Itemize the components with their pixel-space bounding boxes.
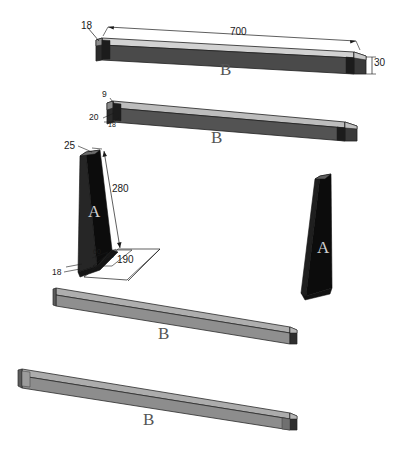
bar1-dim-18-label: 18 [81, 21, 92, 31]
bracketA-dim18-leader [64, 269, 80, 272]
parts-illustration [0, 0, 403, 456]
bar4-right-notch [282, 418, 290, 430]
bracket-a-right-part-label: A [317, 239, 329, 256]
bar3-left-endcap [53, 288, 56, 306]
bar4-left-notch [22, 371, 30, 387]
bar2-dim-18-label: 18 [108, 121, 116, 128]
bracketA-dim25-tick [92, 148, 102, 149]
bar3-front-face [56, 295, 290, 344]
bracket-a-dim-280-label: 280 [112, 184, 129, 194]
bar4-front-face [22, 376, 290, 430]
part-bar-b-fourth [18, 369, 297, 430]
bar2-dim-9-label: 9 [102, 90, 107, 99]
bracket-a-dim-18-label: 18 [52, 268, 61, 277]
bracket-a-dim-190-label: 190 [117, 255, 134, 265]
bar4-left-endcap [18, 369, 22, 388]
bracket-a-dim-60-label: 60 [93, 248, 101, 255]
bracketA-dim280-arrow-top [103, 151, 108, 157]
part-bar-b-third [53, 288, 297, 344]
bar1-part-label: B [220, 61, 231, 78]
bar3-right-endcap-top [290, 327, 297, 333]
bar1-right-notch [346, 57, 354, 74]
part-bracket-a-right [301, 174, 332, 300]
bar1-left-endcap-top [96, 38, 102, 46]
part-bar-b-second [103, 98, 357, 141]
bar2-part-label: B [211, 129, 222, 146]
bar1-left-notch [102, 40, 110, 59]
bar4-part-label: B [143, 411, 154, 428]
bracket-a-dim-25-label: 25 [64, 141, 75, 151]
part-bracket-a-left [64, 146, 160, 281]
bar1-dim-30-label: 30 [374, 58, 385, 68]
bar1-dim700-ext-left [103, 27, 108, 36]
bar2-right-notch [337, 127, 345, 141]
drawing-canvas: 18 700 30 B 9 20 18 B 25 A 280 60 90 190… [0, 0, 403, 456]
bracketA-dim25-leader [78, 146, 92, 152]
bar4-right-endcap-top [290, 413, 297, 419]
bracket-a-dim-90-label: 90 [106, 252, 114, 259]
bar1-dim700-ext-right [356, 41, 360, 50]
bar3-part-label: B [158, 325, 169, 342]
bar2-left-notch [113, 103, 121, 121]
bar1-dim-700-label: 700 [230, 27, 247, 37]
bracket-a-left-part-label: A [88, 203, 100, 220]
bar2-right-endcap-top [345, 122, 357, 129]
bracketA-dim280-arrow-bottom [117, 242, 122, 248]
bar2-dim-20-label: 20 [89, 113, 98, 122]
